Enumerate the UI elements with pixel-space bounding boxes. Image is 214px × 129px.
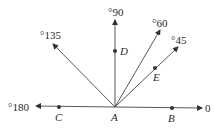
ray-135 [53,44,115,107]
point-b-dot [170,106,174,110]
label-point-d: D [119,45,128,57]
label-60: °60 [152,17,168,29]
label-90: °90 [108,6,124,18]
label-0: 0 [205,102,211,114]
label-point-b: B [168,112,175,124]
label-135: °135 [40,29,61,41]
ray-0 [115,107,202,108]
label-point-c: C [55,111,63,123]
ray-180 [36,106,115,107]
label-45: °45 [171,34,187,46]
point-c-dot [57,105,61,109]
point-e-dot [153,66,157,70]
label-point-a: A [110,111,118,123]
angle-diagram: °90 °60 °45 °135 °180 0 A B C D E [0,0,214,129]
label-point-e: E [152,71,160,83]
point-d-dot [113,49,117,53]
label-180: °180 [8,101,29,113]
